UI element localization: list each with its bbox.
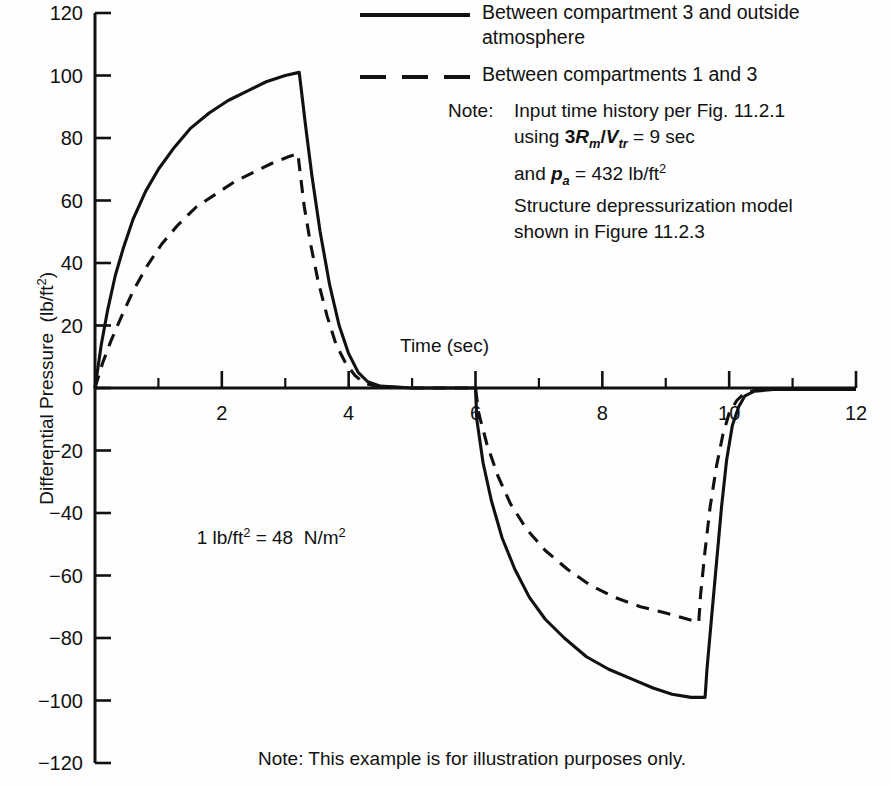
note-line-3: and pa = 432 lb/ft2 — [514, 156, 793, 194]
note-line-5: shown in Figure 11.2.3 — [514, 219, 793, 245]
bottom-note: Note: This example is for illustration p… — [258, 748, 686, 770]
legend-line-sample-solid — [360, 13, 470, 17]
figure-differential-pressure-chart: 120100806040200−20−40−60−80−100−12024681… — [0, 0, 891, 786]
note-lines: Input time history per Fig. 11.2.1 using… — [514, 98, 793, 244]
y-axis-title-exponent: 2 — [34, 278, 49, 285]
note-line-4: Structure depressurization model — [514, 193, 793, 219]
legend-line-sample-dashed — [360, 75, 470, 79]
text-overlay: Differential Pressure (lb/ft2) Time (sec… — [0, 0, 891, 786]
legend-label-dashed: Between compartments 1 and 3 — [482, 62, 891, 87]
unit-conversion-note: 1 lb/ft2 = 48 N/m2 — [165, 503, 346, 571]
chart-legend: Between compartment 3 and outside atmosp… — [360, 0, 891, 92]
note-line-1: Input time history per Fig. 11.2.1 — [514, 98, 793, 124]
note-line-2: using 3Rm/Vtr = 9 sec — [514, 124, 793, 156]
legend-item-solid: Between compartment 3 and outside atmosp… — [360, 0, 891, 50]
legend-label-solid: Between compartment 3 and outside atmosp… — [482, 0, 891, 50]
legend-item-dashed: Between compartments 1 and 3 — [360, 62, 891, 92]
note-annotation: Note: Input time history per Fig. 11.2.1… — [448, 98, 793, 244]
x-axis-title: Time (sec) — [400, 335, 489, 357]
note-label: Note: — [448, 98, 493, 124]
y-axis-title: Differential Pressure (lb/ft2) — [12, 254, 80, 554]
